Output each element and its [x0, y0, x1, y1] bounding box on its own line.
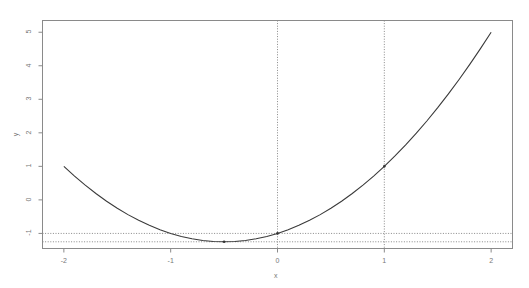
plot-canvas	[0, 0, 529, 288]
x-axis-title: x	[274, 272, 278, 279]
reference-lines	[43, 21, 513, 249]
y-tick-label: 5	[24, 25, 31, 39]
marked-points	[223, 165, 386, 243]
x-tick-label: 0	[273, 257, 283, 264]
x-tick-label: -1	[166, 257, 176, 264]
x-tick-label: 1	[379, 257, 389, 264]
y-tick-label: 4	[24, 58, 31, 72]
y-tick-label: 1	[24, 159, 31, 173]
y-tick-label: 3	[24, 92, 31, 106]
chart-figure: -2-1012 -1012345 x y	[0, 0, 529, 288]
y-axis-ticks	[39, 32, 43, 233]
x-axis-ticks	[64, 249, 491, 253]
y-tick-label: -1	[24, 226, 31, 240]
data-point-marker	[276, 232, 279, 235]
y-tick-label: 0	[24, 192, 31, 206]
y-axis-title: y	[12, 133, 19, 137]
data-point-marker	[223, 240, 226, 243]
x-tick-label: -2	[59, 257, 69, 264]
data-point-marker	[383, 165, 386, 168]
y-tick-label: 2	[24, 125, 31, 139]
x-tick-label: 2	[486, 257, 496, 264]
